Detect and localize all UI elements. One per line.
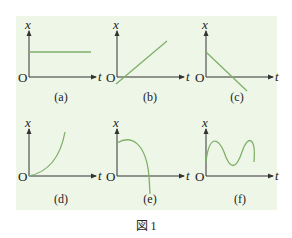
panel-c-caption: (c) xyxy=(230,91,243,103)
panel-c-x-label: x xyxy=(202,18,208,31)
figure-caption: 図 1 xyxy=(136,216,157,234)
panel-f-x-label: x xyxy=(202,116,208,129)
panel-f-t-label: t xyxy=(275,169,279,182)
panel-f-caption: (f) xyxy=(234,193,246,205)
panel-c xyxy=(206,31,273,91)
panel-e-caption: (e) xyxy=(143,193,156,205)
panel-d-t-label: t xyxy=(98,169,102,182)
panel-d-x-label: x xyxy=(25,116,31,129)
panel-a-origin-label: O xyxy=(18,71,27,84)
panel-d-origin-label: O xyxy=(18,170,27,183)
panel-e-x-label: x xyxy=(113,116,119,129)
panel-d-caption: (d) xyxy=(54,193,68,205)
panel-e xyxy=(117,129,184,194)
panel-f-curve xyxy=(206,141,254,166)
panel-c-t-label: t xyxy=(275,70,279,83)
panel-e-curve xyxy=(117,140,150,194)
panel-b-caption: (b) xyxy=(143,91,157,103)
panel-a-x-label: x xyxy=(25,18,31,31)
panel-c-origin-label: O xyxy=(195,71,204,84)
panel-f xyxy=(206,129,273,176)
panel-e-t-label: t xyxy=(186,169,190,182)
panel-b-t-label: t xyxy=(186,70,190,83)
panel-d xyxy=(29,129,96,176)
panel-e-origin-label: O xyxy=(106,170,115,183)
panel-f-origin-label: O xyxy=(195,170,204,183)
panel-b-x-label: x xyxy=(113,18,119,31)
panel-a xyxy=(29,31,96,77)
panel-b xyxy=(116,31,184,84)
panel-b-origin-label: O xyxy=(106,71,115,84)
panel-b-curve xyxy=(116,41,167,84)
panel-d-curve xyxy=(29,132,65,176)
panel-a-t-label: t xyxy=(98,70,102,83)
panel-a-caption: (a) xyxy=(54,91,67,103)
panel-c-curve xyxy=(206,52,247,91)
